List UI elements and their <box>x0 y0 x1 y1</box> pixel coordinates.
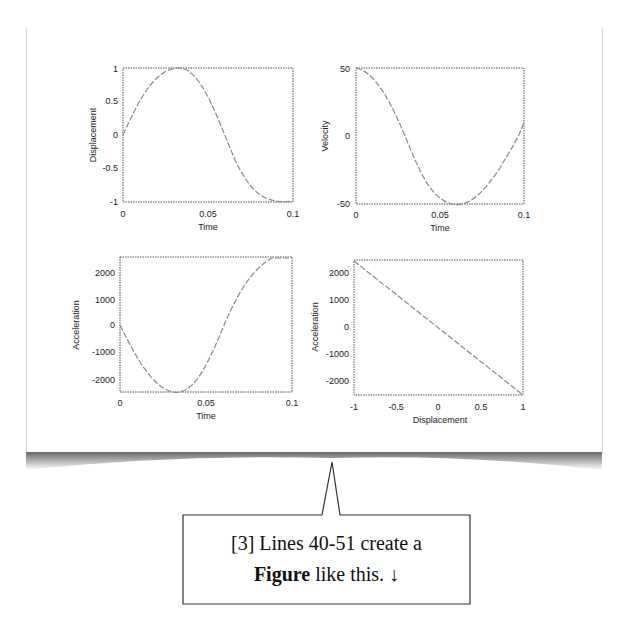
x-axis-label: Time <box>198 222 218 232</box>
ytick: -1000 <box>326 349 349 359</box>
xtick: 0.05 <box>431 210 449 220</box>
ytick: 2000 <box>329 268 349 278</box>
subplot-acceleration-time: 2000 1000 0 -1000 -2000 0 0.05 0.1 Time … <box>71 257 298 421</box>
ytick: -2000 <box>92 375 115 385</box>
y-axis-label: Acceleration <box>310 302 320 352</box>
xtick: 0.05 <box>197 398 215 408</box>
ytick: -1000 <box>92 347 115 357</box>
ytick: 0 <box>344 322 349 332</box>
ytick: -50 <box>337 199 350 209</box>
ytick: 1000 <box>95 295 115 305</box>
x-axis-label: Time <box>196 411 216 421</box>
ytick: 50 <box>340 64 350 74</box>
xtick: 1 <box>520 402 525 412</box>
ytick: -2000 <box>326 376 349 386</box>
callout-line-2: Figure like this. ↓ <box>183 563 470 586</box>
y-axis-label: Acceleration <box>71 300 81 350</box>
xtick: -1 <box>350 402 358 412</box>
callout-bold-word: Figure <box>254 563 310 585</box>
xtick: -0.5 <box>388 402 404 412</box>
ytick: 1 <box>113 64 118 74</box>
ytick: 0 <box>345 131 350 141</box>
xtick: 0.1 <box>286 398 299 408</box>
displacement-curve <box>123 68 293 202</box>
y-axis-label: Velocity <box>320 120 330 152</box>
xtick: 0 <box>353 210 358 220</box>
callout-line-1: [3] Lines 40-51 create a <box>183 532 470 555</box>
ytick: 0 <box>113 130 118 140</box>
ytick: 2000 <box>95 268 115 278</box>
y-axis-label: Displacement <box>88 107 98 162</box>
xtick: 0.05 <box>199 209 217 219</box>
acceleration-curve <box>120 258 292 392</box>
subplot-velocity-time: 50 0 -50 0 0.05 0.1 Time Velocity <box>320 64 530 233</box>
ytick: 1000 <box>329 295 349 305</box>
callout-line-2-rest: like this. <box>310 563 389 585</box>
ytick: 0 <box>110 320 115 330</box>
ytick: -1 <box>110 197 118 207</box>
down-arrow-icon: ↓ <box>389 563 399 585</box>
xtick: 0 <box>120 209 125 219</box>
subplot-displacement-time: 1 0.5 0 -0.5 -1 0 0.05 0.1 Time Displace… <box>88 64 299 232</box>
velocity-curve <box>356 68 524 205</box>
ytick: 0.5 <box>105 96 118 106</box>
xtick: 0 <box>435 402 440 412</box>
xtick: 0.1 <box>518 210 531 220</box>
x-axis-label: Time <box>430 223 450 233</box>
subplot-acceleration-displacement: 2000 1000 0 -1000 -2000 -1 -0.5 0 0.5 1 … <box>310 260 526 425</box>
xtick: 0.1 <box>287 209 300 219</box>
xtick: 0.5 <box>475 402 488 412</box>
acceleration-displacement-line <box>354 261 523 395</box>
ytick: -0.5 <box>102 163 118 173</box>
xtick: 0 <box>117 398 122 408</box>
x-axis-label: Displacement <box>413 415 468 425</box>
